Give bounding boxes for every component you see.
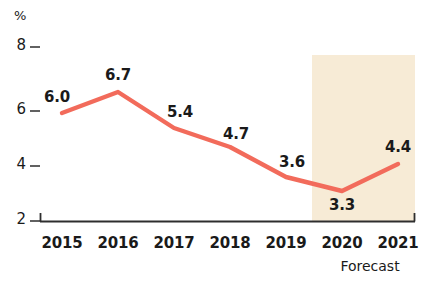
data-label-2019: 3.6 [267, 153, 317, 171]
y-tick-label-2: 2 [6, 210, 26, 228]
data-label-2018: 4.7 [211, 125, 261, 143]
forecast-caption: Forecast [330, 258, 410, 274]
x-tick-label-2021: 2021 [368, 234, 428, 252]
y-axis-unit-label: % [14, 8, 27, 23]
x-tick-label-2020: 2020 [312, 234, 372, 252]
data-label-2017: 5.4 [155, 103, 205, 121]
y-tick-label-6: 6 [6, 100, 26, 118]
data-label-2015: 6.0 [32, 88, 82, 106]
y-tick-label-8: 8 [6, 36, 26, 54]
x-tick-label-2015: 2015 [32, 234, 92, 252]
x-tick-label-2019: 2019 [256, 234, 316, 252]
data-label-2020: 3.3 [317, 196, 367, 214]
y-axis-ticks [30, 47, 40, 221]
x-tick-label-2018: 2018 [200, 234, 260, 252]
data-label-2021: 4.4 [373, 138, 423, 156]
y-tick-label-4: 4 [6, 155, 26, 173]
x-tick-label-2017: 2017 [144, 234, 204, 252]
line-chart: % 8 6 4 2 2015 2016 2017 2018 2019 2020 … [0, 0, 428, 281]
x-tick-label-2016: 2016 [88, 234, 148, 252]
data-label-2016: 6.7 [93, 66, 143, 84]
